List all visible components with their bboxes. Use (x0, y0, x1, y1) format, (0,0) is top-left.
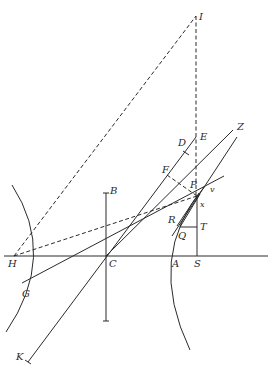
label-Q: Q (178, 231, 186, 241)
label-x: x (200, 201, 205, 209)
label-K: K (16, 352, 23, 362)
label-v: v (210, 186, 215, 194)
label-G: G (22, 289, 30, 299)
diagram-drawing (0, 0, 275, 380)
label-B: B (110, 186, 117, 196)
hyperbola-diagram: I E D Z F P v x B R Q T H C A S G K (0, 0, 275, 380)
label-A: A (172, 259, 179, 269)
label-Z: Z (237, 122, 244, 132)
label-C: C (109, 259, 117, 269)
label-T: T (200, 222, 207, 232)
K-tick (25, 360, 31, 364)
label-R: R (168, 215, 176, 225)
label-S: S (194, 259, 201, 269)
label-P: P (190, 180, 197, 190)
label-I: I (199, 12, 203, 22)
label-E: E (200, 132, 207, 142)
label-D: D (178, 138, 186, 148)
line-R-P (177, 193, 199, 226)
label-F: F (162, 165, 169, 175)
label-H: H (8, 259, 17, 269)
